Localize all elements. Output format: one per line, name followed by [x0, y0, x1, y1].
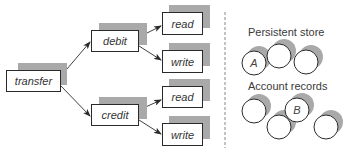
- account-records-circles: B: [242, 93, 343, 139]
- node-transfer: transfer: [6, 70, 61, 92]
- node-debit-write: write: [162, 50, 203, 73]
- node-credit-label: credit: [91, 104, 139, 126]
- node-credit: credit: [91, 104, 139, 126]
- record-circle: [267, 39, 296, 68]
- node-debit-read-label: read: [162, 12, 203, 35]
- edge-credit-write: [139, 120, 161, 134]
- record-circle: [294, 45, 323, 74]
- svg-text:A: A: [249, 57, 257, 69]
- account-records-title: Account records: [248, 80, 327, 92]
- edge-transfer-credit: [61, 86, 90, 116]
- node-debit: debit: [91, 30, 139, 52]
- node-credit-read-label: read: [162, 86, 203, 108]
- transaction-diagram: A B: [0, 0, 360, 158]
- node-credit-read: read: [162, 86, 203, 108]
- edge-debit-write: [139, 46, 161, 60]
- node-debit-write-label: write: [162, 50, 203, 73]
- record-circle-b: B: [285, 93, 314, 122]
- persistent-store-circles: A: [242, 39, 323, 75]
- node-debit-label: debit: [91, 30, 139, 52]
- record-circle-a: A: [242, 46, 271, 75]
- node-credit-write-label: write: [162, 123, 203, 146]
- node-transfer-label: transfer: [6, 70, 61, 92]
- svg-text:B: B: [293, 104, 300, 116]
- persistent-store-title: Persistent store: [248, 26, 324, 38]
- record-circle: [242, 94, 271, 123]
- node-debit-read: read: [162, 12, 203, 35]
- node-credit-write: write: [162, 123, 203, 146]
- record-circle: [314, 110, 343, 139]
